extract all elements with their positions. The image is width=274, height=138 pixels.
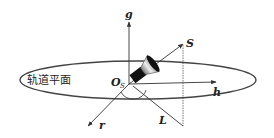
l-projection-line: [133, 86, 183, 126]
plane-label: 轨道平面: [27, 73, 71, 87]
h-axis: [129, 82, 216, 84]
origin-subscript: S: [120, 82, 125, 90]
s-label: S: [186, 37, 194, 50]
r-axis: [88, 84, 129, 126]
angle-arc: [121, 90, 146, 99]
r-label: r: [99, 119, 106, 132]
l-label: L: [158, 114, 167, 127]
g-label: g: [125, 8, 133, 21]
h-label: h: [213, 86, 221, 99]
orbital-plane-diagram: 轨道平面 O S g S h r L: [0, 0, 274, 138]
